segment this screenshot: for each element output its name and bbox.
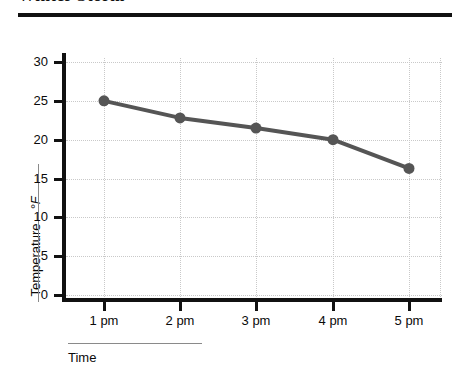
x-axis-tick: [179, 302, 182, 311]
gridline-horizontal: [66, 62, 442, 63]
chart-title: Winter Storm: [18, 0, 318, 6]
gridline-horizontal: [66, 179, 442, 180]
x-axis-tick: [408, 302, 411, 311]
y-axis-tick: [54, 255, 63, 258]
y-axis-tick: [54, 61, 63, 64]
y-axis-tick-label: 20: [16, 133, 48, 146]
x-axis-tick-label: 2 pm: [150, 314, 210, 327]
gridline-vertical: [333, 58, 334, 299]
x-axis-tick: [255, 302, 258, 311]
x-axis-title: Time: [68, 350, 96, 365]
gridline-horizontal: [66, 140, 442, 141]
gridline-vertical: [409, 58, 410, 299]
y-axis-tick: [54, 100, 63, 103]
y-axis-tick-label: 0: [16, 288, 48, 301]
chart-page: Winter Storm Temperature°F Time 05101520…: [0, 0, 465, 379]
gridline-vertical: [256, 58, 257, 299]
y-axis-tick: [54, 178, 63, 181]
gridline-vertical: [440, 58, 441, 299]
plot-area: [66, 58, 442, 299]
y-axis-tick: [54, 139, 63, 142]
y-axis-tick-label: 15: [16, 172, 48, 185]
y-axis-tick-label: 30: [16, 55, 48, 68]
gridline-vertical: [104, 58, 105, 299]
x-axis-title-rule: [68, 343, 202, 344]
gridline-horizontal: [66, 295, 442, 296]
gridline-horizontal: [66, 217, 442, 218]
x-axis-line: [62, 298, 442, 302]
x-axis-tick-label: 1 pm: [74, 314, 134, 327]
y-axis-tick-label: 5: [16, 249, 48, 262]
title-divider: [18, 13, 452, 17]
y-axis-tick: [54, 294, 63, 297]
gridline-horizontal: [66, 101, 442, 102]
y-axis-tick-label: 10: [16, 210, 48, 223]
y-axis-tick: [54, 216, 63, 219]
x-axis-tick-label: 3 pm: [226, 314, 286, 327]
gridline-horizontal: [66, 256, 442, 257]
y-axis-tick-label: 25: [16, 94, 48, 107]
gridline-vertical: [180, 58, 181, 299]
x-axis-tick: [332, 302, 335, 311]
x-axis-tick: [103, 302, 106, 311]
x-axis-tick-label: 4 pm: [303, 314, 363, 327]
y-axis-unit: °F: [28, 196, 43, 209]
x-axis-tick-label: 5 pm: [379, 314, 439, 327]
